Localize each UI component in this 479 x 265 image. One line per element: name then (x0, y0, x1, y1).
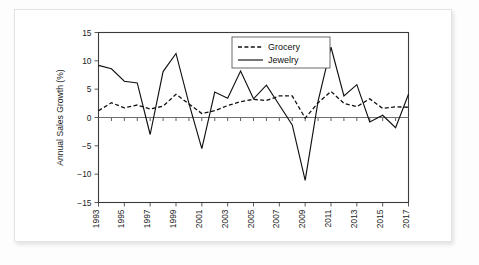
y-tick-label: −5 (82, 141, 92, 151)
x-tick-label: 2001 (194, 209, 204, 228)
x-tick-label: 1993 (91, 209, 101, 228)
y-axis-title: Annual Sales Growth (%) (55, 69, 65, 166)
x-tick-label: 2005 (246, 209, 256, 228)
figure-page: Annual Sales Growth (%) 151050−5−10−15 1… (0, 0, 479, 265)
legend-label-grocery: Grocery (268, 42, 301, 52)
legend-label-jewelry: Jewelry (268, 55, 299, 65)
x-tick-label: 2013 (349, 209, 359, 228)
x-tick-label: 2011 (323, 209, 333, 227)
y-tick-label: −10 (77, 169, 92, 179)
y-tick-label: 0 (87, 113, 92, 123)
y-tick-label: −15 (77, 198, 92, 208)
chart-legend: GroceryJewelry (232, 37, 330, 68)
y-tick-label: 5 (87, 84, 92, 94)
x-tick-label: 2003 (220, 209, 230, 228)
line-chart: Annual Sales Growth (%) 151050−5−10−15 1… (0, 0, 479, 265)
x-axis-ticks: 1993199519971999200120032005200720092011… (91, 118, 411, 229)
x-tick-label: 1997 (142, 209, 152, 228)
x-tick-label: 2015 (375, 209, 385, 228)
x-tick-label: 1995 (116, 209, 126, 228)
y-axis-label: Annual Sales Growth (%) (55, 69, 65, 166)
x-tick-label: 1999 (168, 209, 178, 228)
y-tick-label: 15 (82, 28, 92, 38)
y-axis-ticks: 151050−5−10−15 (77, 28, 98, 208)
x-tick-label: 2017 (401, 209, 411, 228)
y-tick-label: 10 (82, 56, 92, 66)
x-tick-label: 2009 (297, 209, 307, 228)
x-tick-label: 2007 (271, 209, 281, 228)
